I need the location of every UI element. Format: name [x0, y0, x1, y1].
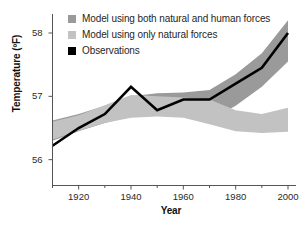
- x-tick-label-1980: 1980: [216, 191, 256, 202]
- x-axis-title: Year: [52, 205, 290, 216]
- legend-swatch-natural-only: [68, 31, 76, 39]
- x-tick-label-1940: 1940: [111, 191, 151, 202]
- y-tick-label-56: 56: [17, 154, 43, 165]
- x-tick-label-1960: 1960: [163, 191, 203, 202]
- legend-swatch-observations: [68, 47, 76, 55]
- legend-item-observations: Observations: [68, 43, 300, 58]
- chart-legend: Model using both natural and human force…: [68, 11, 300, 59]
- legend-swatch-both-forces: [68, 15, 76, 23]
- y-tick-label-57: 57: [17, 90, 43, 101]
- band-series-1: [53, 95, 289, 139]
- legend-item-both-forces: Model using both natural and human force…: [68, 11, 300, 26]
- x-tick-label-1920: 1920: [59, 191, 99, 202]
- legend-label-natural-only: Model using only natural forces: [82, 29, 217, 40]
- legend-label-observations: Observations: [82, 45, 140, 56]
- legend-label-both-forces: Model using both natural and human force…: [82, 13, 270, 24]
- y-axis-ticks: [49, 33, 53, 160]
- climate-attribution-chart: Model using both natural and human force…: [0, 0, 307, 226]
- y-tick-label-58: 58: [17, 27, 43, 38]
- legend-item-natural-only: Model using only natural forces: [68, 27, 300, 42]
- x-tick-label-2000: 2000: [268, 191, 307, 202]
